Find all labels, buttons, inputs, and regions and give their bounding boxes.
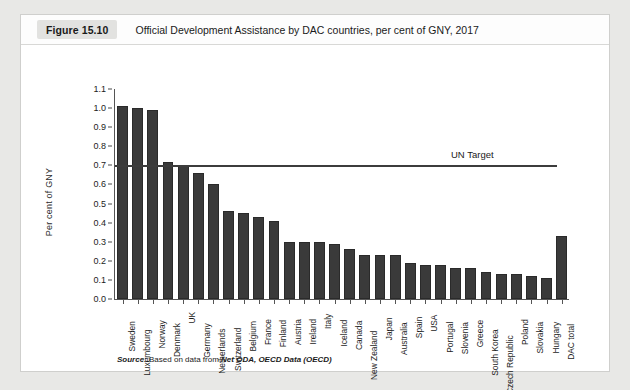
y-tick-mark: [108, 89, 112, 90]
x-label-slot: South Korea: [478, 306, 493, 368]
x-label-slot: Hungary: [539, 306, 554, 368]
y-tick-mark: [108, 108, 112, 109]
bar-slot: [509, 89, 524, 299]
figure-number-badge: Figure 15.10: [37, 20, 117, 39]
bar-slot: [448, 89, 463, 299]
un-target-label: UN Target: [451, 149, 494, 160]
y-tick-mark: [108, 203, 112, 204]
bar[interactable]: [329, 244, 340, 299]
bar-slot: [403, 89, 418, 299]
bar-slot: [524, 89, 539, 299]
bar[interactable]: [178, 165, 189, 299]
bar[interactable]: [284, 242, 295, 299]
bar-slot: [494, 89, 509, 299]
un-target-reference-line: [115, 165, 557, 167]
x-label-slot: Portugal: [433, 306, 448, 368]
y-tick-mark: [108, 127, 112, 128]
bar-series: [115, 89, 569, 299]
y-tick-label: 0.9: [93, 122, 106, 132]
y-tick-mark: [108, 222, 112, 223]
bar-slot: [282, 89, 297, 299]
source-note: Source: Based on data from Net ODA, OECD…: [117, 355, 332, 364]
y-axis-tick-labels: 0.00.10.20.30.40.50.60.70.80.91.01.1: [81, 89, 111, 299]
bar-slot: [388, 89, 403, 299]
bar-slot: [251, 89, 266, 299]
x-label-slot: Czech Republic: [494, 306, 509, 368]
source-citation: Net ODA, OECD Data (OECD): [221, 355, 332, 364]
y-tick-label: 0.1: [93, 275, 106, 285]
bar[interactable]: [405, 263, 416, 299]
bar-slot: [130, 89, 145, 299]
y-tick-label: 0.6: [93, 179, 106, 189]
x-label-slot: Australia: [388, 306, 403, 368]
bar-slot: [478, 89, 493, 299]
y-tick-label: 0.5: [93, 199, 106, 209]
bar-slot: [191, 89, 206, 299]
y-tick-mark: [108, 260, 112, 261]
y-tick-label: 1.0: [93, 103, 106, 113]
bar-slot: [554, 89, 569, 299]
bar[interactable]: [208, 184, 219, 299]
bar-slot: [206, 89, 221, 299]
bar-slot: [115, 89, 130, 299]
bar[interactable]: [147, 110, 158, 299]
y-tick-mark: [108, 241, 112, 242]
y-tick-label: 0.8: [93, 141, 106, 151]
source-text: Based on data from: [147, 355, 221, 364]
bar[interactable]: [238, 213, 249, 299]
y-tick-mark: [108, 184, 112, 185]
x-label-slot: New Zealand: [357, 306, 372, 368]
bar-slot: [221, 89, 236, 299]
x-label-slot: Slovenia: [448, 306, 463, 368]
y-tick-mark: [108, 299, 112, 300]
bar-slot: [327, 89, 342, 299]
bar-slot: [418, 89, 433, 299]
bar[interactable]: [314, 242, 325, 299]
bar[interactable]: [163, 162, 174, 299]
chart-plot-area: Per cent of GNY 0.00.10.20.30.40.50.60.7…: [21, 45, 609, 372]
bar[interactable]: [269, 221, 280, 299]
bar-slot: [539, 89, 554, 299]
figure-title: Official Development Assistance by DAC c…: [135, 24, 478, 36]
y-tick-mark: [108, 279, 112, 280]
plot-wrapper: Per cent of GNY 0.00.10.20.30.40.50.60.7…: [21, 45, 609, 372]
y-tick-label: 0.0: [93, 294, 106, 304]
bar[interactable]: [193, 173, 204, 299]
x-label-slot: Spain: [403, 306, 418, 368]
source-keyword: Source:: [117, 355, 147, 364]
bar[interactable]: [132, 108, 143, 299]
bar-slot: [357, 89, 372, 299]
x-label-slot: Slovakia: [524, 306, 539, 368]
x-label-slot: DAC total: [554, 306, 569, 368]
x-label-slot: Japan: [372, 306, 387, 368]
bar-slot: [312, 89, 327, 299]
bar-slot: [372, 89, 387, 299]
bar-slot: [297, 89, 312, 299]
bar-slot: [236, 89, 251, 299]
x-label-slot: Greece: [463, 306, 478, 368]
x-label-slot: Canada: [342, 306, 357, 368]
bar-slot: [433, 89, 448, 299]
y-axis-title: Per cent of GNY: [44, 132, 54, 272]
bar[interactable]: [375, 255, 386, 299]
bar-slot: [266, 89, 281, 299]
x-tick-label: DAC total: [562, 288, 572, 324]
y-tick-mark: [108, 165, 112, 166]
bar-slot: [145, 89, 160, 299]
figure-header: Figure 15.10 Official Development Assist…: [21, 15, 609, 45]
y-tick-label: 0.3: [93, 237, 106, 247]
bar-slot: [463, 89, 478, 299]
bar[interactable]: [253, 217, 264, 299]
bar-slot: [342, 89, 357, 299]
y-tick-label: 0.4: [93, 218, 106, 228]
bar[interactable]: [420, 265, 431, 299]
y-tick-mark: [108, 146, 112, 147]
y-tick-label: 0.2: [93, 256, 106, 266]
bar[interactable]: [299, 242, 310, 299]
figure-card: Figure 15.10 Official Development Assist…: [20, 14, 610, 372]
x-label-slot: USA: [418, 306, 433, 368]
x-label-slot: Poland: [509, 306, 524, 368]
bar[interactable]: [117, 106, 128, 299]
bar-slot: [176, 89, 191, 299]
y-tick-label: 1.1: [93, 84, 106, 94]
